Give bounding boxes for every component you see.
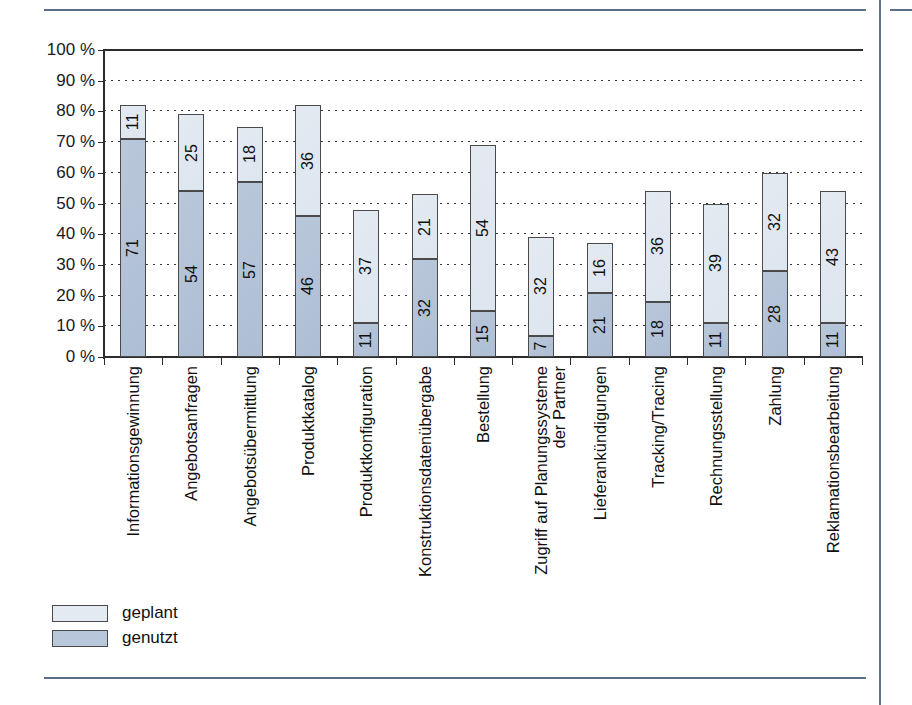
bar-segment-genutzt[interactable]: 57: [237, 182, 263, 357]
x-axis-tick-mark: [221, 357, 222, 365]
legend-label: geplant: [122, 603, 178, 623]
bar-segment-geplant[interactable]: 54: [470, 145, 496, 311]
bar-segment-genutzt[interactable]: 21: [587, 293, 613, 357]
bar-segment-genutzt[interactable]: 7: [528, 336, 554, 357]
bar-segment-genutzt[interactable]: 11: [820, 323, 846, 357]
bar-segment-genutzt[interactable]: 54: [178, 191, 204, 357]
bar-value-label: 71: [125, 239, 141, 257]
bar-value-label: 43: [825, 248, 841, 266]
x-axis-category-label: Zahlung: [766, 366, 784, 426]
chart-legend: geplantgenutzt: [52, 602, 178, 652]
bar-segment-geplant[interactable]: 36: [295, 105, 321, 216]
bar-value-label: 21: [417, 218, 433, 236]
bar-value-label: 46: [300, 277, 316, 295]
category-label-line: Reklamationsbearbeitung: [824, 366, 842, 553]
bar-segment-genutzt[interactable]: 11: [353, 323, 379, 357]
y-axis-tick-label: 10 %: [56, 316, 95, 336]
y-axis-tick-mark: [98, 111, 104, 112]
legend-swatch: [52, 605, 108, 622]
bar-segment-geplant[interactable]: 18: [237, 127, 263, 182]
gridline: [104, 110, 862, 111]
y-axis-tick-label: 0 %: [66, 347, 95, 367]
gridline: [104, 141, 862, 142]
bar-value-label: 16: [592, 259, 608, 277]
bar-value-label: 11: [825, 332, 841, 349]
bar-value-label: 18: [242, 145, 258, 163]
bar-value-label: 37: [358, 258, 374, 276]
bar-segment-genutzt[interactable]: 15: [470, 311, 496, 357]
y-axis-tick-mark: [98, 81, 104, 82]
bar-segment-geplant[interactable]: 37: [353, 210, 379, 324]
bar-segment-genutzt[interactable]: 28: [762, 271, 788, 357]
y-axis-tick-label: 100 %: [47, 40, 95, 60]
bar-value-label: 32: [417, 299, 433, 317]
bar-value-label: 28: [767, 305, 783, 323]
x-axis-category-label: Informationsgewinnung: [124, 366, 142, 537]
bar-segment-genutzt[interactable]: 46: [295, 216, 321, 357]
bar-value-label: 25: [183, 144, 199, 162]
x-axis-tick-mark: [570, 357, 571, 365]
bar-segment-geplant[interactable]: 11: [120, 105, 146, 139]
bar-segment-geplant[interactable]: 25: [178, 114, 204, 191]
bar-value-label: 54: [475, 219, 491, 237]
x-axis-category-label: Rechnungsstellung: [707, 366, 725, 506]
bar-value-label: 36: [650, 238, 666, 256]
x-axis-tick-mark: [745, 357, 746, 365]
category-label-line: der Partner: [551, 366, 569, 575]
category-label-line: Zugriff auf Planungssysteme: [532, 366, 550, 575]
bar-segment-geplant[interactable]: 32: [762, 173, 788, 271]
legend-label: genutzt: [122, 628, 178, 648]
x-axis-tick-mark: [629, 357, 630, 365]
y-axis-tick-label: 60 %: [56, 163, 95, 183]
category-label-line: Informationsgewinnung: [124, 366, 142, 537]
gridline: [104, 80, 862, 81]
bar-segment-genutzt[interactable]: 18: [645, 302, 671, 357]
category-label-line: Bestellung: [474, 366, 492, 443]
bar-value-label: 36: [300, 152, 316, 170]
bar-value-label: 7: [533, 342, 549, 351]
bar-value-label: 57: [242, 261, 258, 279]
x-axis-category-label: Angebotsübermittlung: [241, 366, 259, 527]
y-axis-tick-label: 30 %: [56, 255, 95, 275]
bar-value-label: 21: [592, 316, 608, 334]
x-axis-tick-mark: [279, 357, 280, 365]
category-label-line: Lieferankündigungen: [591, 366, 609, 520]
page-rule-top: [44, 9, 866, 11]
y-axis-tick-mark: [98, 234, 104, 235]
category-label-line: Produktkatalog: [299, 366, 317, 476]
x-axis-tick-mark: [687, 357, 688, 365]
x-axis-tick-mark: [804, 357, 805, 365]
bar-segment-genutzt[interactable]: 32: [412, 259, 438, 357]
bar-segment-geplant[interactable]: 43: [820, 191, 846, 323]
bar-segment-genutzt[interactable]: 11: [703, 323, 729, 357]
x-axis-category-label: Bestellung: [474, 366, 492, 443]
legend-item[interactable]: genutzt: [52, 627, 178, 649]
bar-value-label: 32: [767, 213, 783, 231]
y-axis-tick-label: 70 %: [56, 132, 95, 152]
category-label-line: Rechnungsstellung: [707, 366, 725, 506]
y-axis-tick-mark: [98, 173, 104, 174]
category-label-line: Produktkonfiguration: [357, 366, 375, 517]
y-axis-tick-mark: [98, 326, 104, 327]
y-axis-tick-mark: [98, 142, 104, 143]
bar-segment-genutzt[interactable]: 71: [120, 139, 146, 357]
bar-segment-geplant[interactable]: 32: [528, 237, 554, 335]
x-axis-category-label: Zugriff auf Planungssystemeder Partner: [532, 366, 569, 575]
plot-area: 0 %10 %20 %30 %40 %50 %60 %70 %80 %90 %1…: [104, 50, 862, 357]
bar-value-label: 15: [475, 325, 491, 343]
category-label-line: Konstruktionsdatenübergabe: [416, 366, 434, 577]
category-label-line: Tracking/Tracing: [649, 366, 667, 488]
x-axis-category-label: Lieferankündigungen: [591, 366, 609, 520]
page-edge-line: [879, 0, 881, 705]
x-axis-tick-mark: [337, 357, 338, 365]
bar-value-label: 11: [358, 332, 374, 349]
x-axis-tick-mark: [454, 357, 455, 365]
bar-segment-geplant[interactable]: 36: [645, 191, 671, 302]
bar-segment-geplant[interactable]: 39: [703, 204, 729, 324]
bar-value-label: 11: [708, 332, 724, 349]
bar-segment-geplant[interactable]: 16: [587, 243, 613, 292]
bar-segment-geplant[interactable]: 21: [412, 194, 438, 258]
x-axis-tick-mark: [862, 357, 863, 365]
x-axis-tick-mark: [512, 357, 513, 365]
legend-item[interactable]: geplant: [52, 602, 178, 624]
